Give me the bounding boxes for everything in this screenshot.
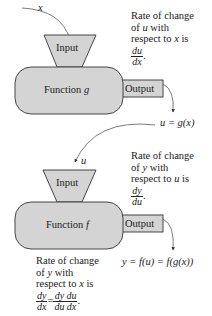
note-g-line2: of u with xyxy=(131,22,194,34)
function-label-f: Function f xyxy=(46,219,89,230)
note-f-line1: Rate of change xyxy=(131,150,194,162)
function-label-g: Function g xyxy=(44,84,89,95)
function-word-g: Function xyxy=(44,84,81,95)
input-label-f: Input xyxy=(56,177,78,188)
output-arrow-g xyxy=(163,84,173,112)
function-name-f: f xyxy=(86,219,89,230)
note-f-line2: of y with xyxy=(131,162,194,174)
note-g-fraction: dudx. xyxy=(131,46,194,67)
note-f-line3: respect to u is xyxy=(131,173,194,185)
function-word-f: Function xyxy=(46,219,83,230)
note-g-line1: Rate of change xyxy=(131,10,194,22)
chain-rule-equation: dydx=dydududx. xyxy=(36,291,99,312)
function-name-g: g xyxy=(84,84,89,95)
output-label-f: Output xyxy=(125,218,154,229)
output-label-g: Output xyxy=(125,83,154,94)
rate-note-f: Rate of change of y with respect to u is… xyxy=(131,150,194,207)
chain-line3: respect to x is xyxy=(36,278,99,290)
connector-var-u: u xyxy=(81,155,86,166)
result-y: y = f(u) = f(g(x)) xyxy=(122,256,193,267)
chain-line1: Rate of change xyxy=(36,255,99,267)
result-u: u = g(x) xyxy=(160,117,195,128)
chain-line2: of y with xyxy=(36,267,99,279)
input-label-g: Input xyxy=(56,42,78,53)
note-g-line3: respect to x is xyxy=(131,33,194,45)
rate-note-g: Rate of change of u with respect to x is… xyxy=(131,10,194,67)
input-var-x: x xyxy=(38,2,43,13)
chain-rule-note: Rate of change of y with respect to x is… xyxy=(36,255,99,312)
output-arrow-f xyxy=(163,219,173,250)
note-f-fraction: dydu. xyxy=(131,186,194,207)
